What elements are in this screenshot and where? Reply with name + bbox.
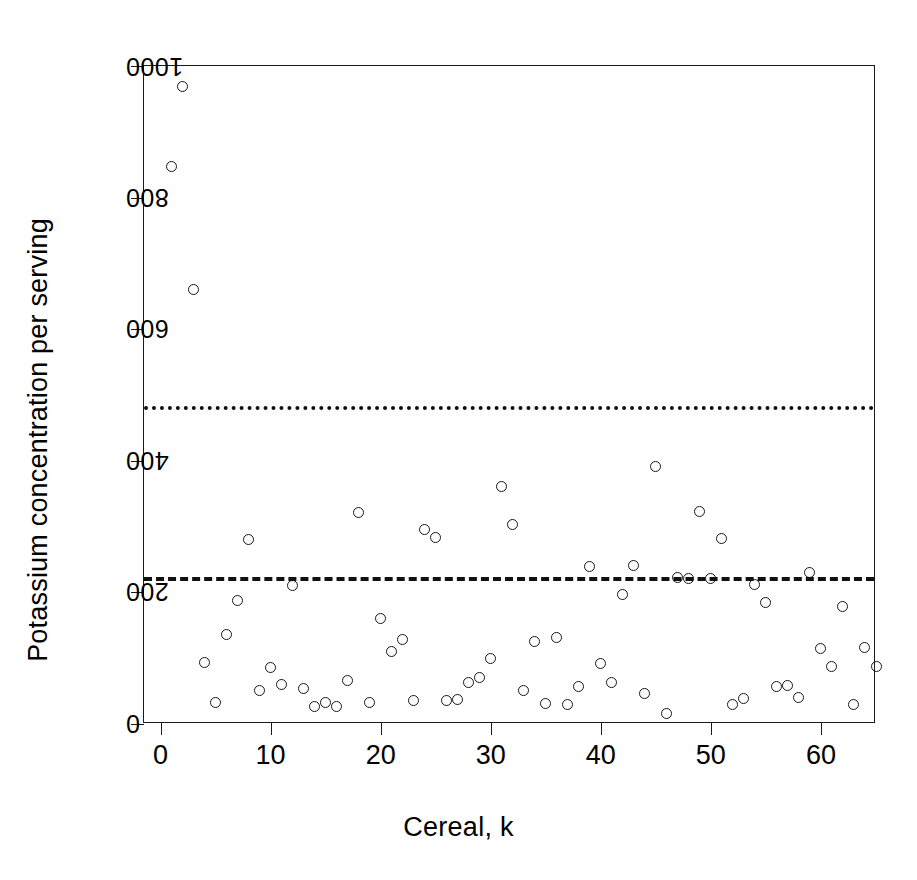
data-point bbox=[760, 597, 771, 608]
data-point bbox=[210, 697, 221, 708]
data-point bbox=[199, 657, 210, 668]
data-point bbox=[606, 677, 617, 688]
data-point bbox=[782, 680, 793, 691]
data-point bbox=[463, 677, 474, 688]
data-point bbox=[507, 519, 518, 530]
data-point bbox=[276, 679, 287, 690]
data-point bbox=[408, 695, 419, 706]
y-axis-tick-label-text: 800 bbox=[126, 185, 169, 210]
data-point bbox=[441, 695, 452, 706]
data-point bbox=[485, 653, 496, 664]
data-points-layer bbox=[144, 66, 874, 722]
data-point bbox=[287, 580, 298, 591]
data-point bbox=[826, 661, 837, 672]
data-point bbox=[848, 699, 859, 710]
x-axis-tick bbox=[271, 722, 272, 735]
data-point bbox=[397, 634, 408, 645]
data-point bbox=[617, 589, 628, 600]
y-axis-tick-label-text: 0 bbox=[126, 712, 140, 737]
data-point bbox=[628, 560, 639, 571]
data-point bbox=[265, 662, 276, 673]
data-point bbox=[639, 688, 650, 699]
x-axis-tick bbox=[381, 722, 382, 735]
data-point bbox=[474, 672, 485, 683]
data-point bbox=[298, 683, 309, 694]
data-point bbox=[815, 643, 826, 654]
x-axis-tick-label: 60 bbox=[806, 742, 836, 769]
data-point bbox=[529, 636, 540, 647]
data-point bbox=[430, 532, 441, 543]
data-point bbox=[738, 693, 749, 704]
data-point bbox=[177, 81, 188, 92]
x-axis-tick bbox=[821, 722, 822, 735]
data-point bbox=[749, 579, 760, 590]
data-point bbox=[452, 694, 463, 705]
x-axis-tick bbox=[711, 722, 712, 735]
data-point bbox=[562, 699, 573, 710]
data-point bbox=[342, 675, 353, 686]
data-point bbox=[188, 284, 199, 295]
x-axis-tick bbox=[491, 722, 492, 735]
data-point bbox=[683, 573, 694, 584]
data-point bbox=[595, 658, 606, 669]
data-point bbox=[419, 524, 430, 535]
data-point bbox=[166, 161, 177, 172]
data-point bbox=[859, 642, 870, 653]
data-point bbox=[573, 681, 584, 692]
data-point bbox=[243, 534, 254, 545]
data-point bbox=[364, 697, 375, 708]
data-point bbox=[661, 708, 672, 719]
data-point bbox=[496, 481, 507, 492]
data-point bbox=[771, 681, 782, 692]
y-axis-title: Potassium concentration per serving bbox=[23, 218, 54, 662]
x-axis-tick-label: 50 bbox=[696, 742, 726, 769]
data-point bbox=[871, 661, 882, 672]
y-axis-tick-label-text: 400 bbox=[126, 448, 169, 473]
data-point bbox=[232, 595, 243, 606]
x-axis-title: Cereal, k bbox=[0, 812, 917, 843]
data-point bbox=[353, 507, 364, 518]
data-point bbox=[386, 646, 397, 657]
x-axis-tick-label: 30 bbox=[476, 742, 506, 769]
data-point bbox=[320, 697, 331, 708]
data-point bbox=[650, 461, 661, 472]
x-axis-tick bbox=[161, 722, 162, 735]
y-axis-tick-label-text: 1000 bbox=[126, 54, 184, 79]
data-point bbox=[551, 632, 562, 643]
data-point bbox=[331, 701, 342, 712]
plot-area: 02004006008001000 0102030405060 bbox=[143, 65, 875, 723]
data-point bbox=[221, 629, 232, 640]
data-point bbox=[716, 533, 727, 544]
x-axis-tick-label: 20 bbox=[366, 742, 396, 769]
data-point bbox=[804, 567, 815, 578]
data-point bbox=[727, 699, 738, 710]
data-point bbox=[694, 506, 705, 517]
data-point bbox=[705, 573, 716, 584]
y-axis-tick-label-text: 200 bbox=[126, 580, 169, 605]
x-axis-tick-label: 10 bbox=[256, 742, 286, 769]
data-point bbox=[518, 685, 529, 696]
x-axis-tick-label: 40 bbox=[586, 742, 616, 769]
data-point bbox=[672, 572, 683, 583]
data-point bbox=[375, 613, 386, 624]
data-point bbox=[540, 698, 551, 709]
data-point bbox=[254, 685, 265, 696]
data-point bbox=[793, 692, 804, 703]
data-point bbox=[309, 701, 320, 712]
data-point bbox=[837, 601, 848, 612]
scatter-plot-figure: Potassium concentration per serving 0200… bbox=[0, 0, 917, 880]
x-axis-tick bbox=[601, 722, 602, 735]
y-axis-tick-label-text: 600 bbox=[126, 317, 169, 342]
x-axis-tick-label: 0 bbox=[153, 742, 168, 769]
data-point bbox=[584, 561, 595, 572]
y-axis-title-container: Potassium concentration per serving bbox=[18, 0, 58, 880]
